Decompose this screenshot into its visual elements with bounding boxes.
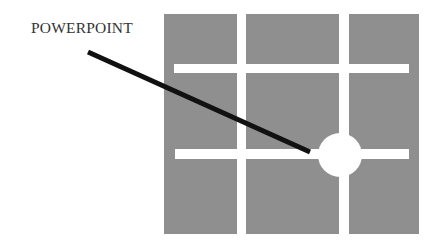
power-point-circle	[318, 133, 362, 177]
grid-column-1	[164, 14, 237, 234]
grid-column-2	[246, 14, 339, 234]
diagram-canvas: POWERPOINT	[0, 0, 439, 245]
grid-blocks	[164, 14, 419, 234]
lower-horizontal-channel	[175, 149, 409, 159]
upper-horizontal-channel	[174, 64, 409, 73]
grid-column-3	[349, 14, 419, 234]
grid-diagram	[0, 0, 439, 245]
